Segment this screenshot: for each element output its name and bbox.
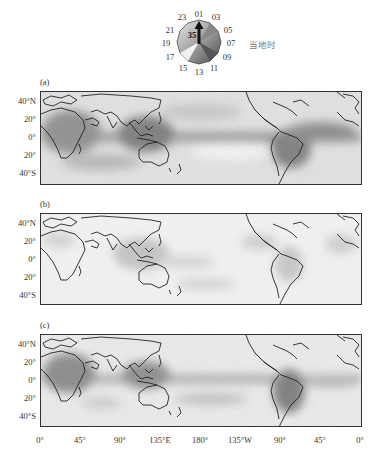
xtick-0-end: 0° [356, 435, 364, 445]
clock-dial-icon [175, 18, 223, 66]
clock-hour-13: 13 [195, 68, 204, 77]
ytick-b-20n: 20° [2, 236, 36, 246]
clock-legend-label: 当地时 [249, 38, 276, 50]
ytick-a-40n: 40°N [2, 96, 36, 106]
local-time-clock: 01 03 05 07 09 11 13 15 17 19 21 23 35 [175, 18, 223, 66]
ytick-b-0: 0° [2, 254, 36, 264]
ytick-a-0: 0° [2, 132, 36, 142]
ytick-c-20n: 20° [2, 357, 36, 367]
ytick-c-20s: 20° [2, 393, 36, 403]
xtick-45e: 45° [74, 435, 86, 445]
clock-hour-11: 11 [210, 64, 218, 73]
ytick-c-40s: 40°S [2, 411, 36, 421]
xtick-180: 180° [192, 435, 208, 445]
clock-hour-03: 03 [212, 13, 221, 22]
panel-label-b: (b) [40, 199, 50, 209]
ytick-b-20s: 20° [2, 272, 36, 282]
clock-hour-15: 15 [179, 64, 188, 73]
xtick-45w: 45° [314, 435, 326, 445]
xtick-90e: 90° [114, 435, 126, 445]
clock-hour-07: 07 [227, 39, 236, 48]
ytick-a-20s: 20° [2, 150, 36, 160]
map-panel-a [40, 91, 362, 185]
ytick-b-40s: 40°S [2, 290, 36, 300]
ytick-a-40s: 40°S [2, 168, 36, 178]
panel-label-a: (a) [40, 77, 49, 87]
ytick-c-40n: 40°N [2, 339, 36, 349]
xtick-135w: 135°W [228, 435, 252, 445]
xtick-90w: 90° [274, 435, 286, 445]
clock-hour-01: 01 [195, 10, 204, 19]
clock-hour-17: 17 [166, 53, 175, 62]
clock-hour-05: 05 [224, 26, 233, 35]
ytick-b-40n: 40°N [2, 218, 36, 228]
clock-hour-23: 23 [178, 13, 187, 22]
clock-center-value: 35 [188, 31, 197, 40]
xtick-135e: 135°E [149, 435, 170, 445]
clock-hour-09: 09 [223, 53, 232, 62]
xtick-0: 0° [36, 435, 44, 445]
map-panel-b [40, 213, 362, 305]
clock-hour-21: 21 [166, 26, 175, 35]
ytick-a-20n: 20° [2, 114, 36, 124]
panel-label-c: (c) [40, 320, 49, 330]
clock-hour-19: 19 [162, 39, 171, 48]
ytick-c-0: 0° [2, 375, 36, 385]
map-panel-c [40, 334, 362, 427]
